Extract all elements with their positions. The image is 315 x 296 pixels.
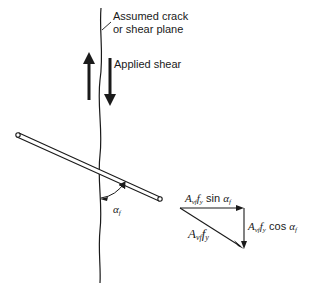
crack-label-line1: Assumed crack — [113, 10, 189, 22]
crack-leader — [102, 22, 111, 30]
diagram-svg: Assumed crack or shear plane Applied she… — [0, 0, 315, 296]
horizontal-component-label: Avffy sin αf — [184, 192, 232, 206]
vertical-component-label: Avffy cos αf — [247, 220, 298, 234]
crack-label-line2: or shear plane — [113, 23, 183, 35]
shear-friction-diagram: Assumed crack or shear plane Applied she… — [0, 0, 315, 296]
angle-label: αf — [113, 203, 122, 217]
crack-line — [99, 8, 101, 283]
applied-shear-label: Applied shear — [114, 58, 182, 70]
reinforcing-bar — [16, 133, 162, 201]
up-arrow-icon — [83, 52, 95, 100]
resultant-label: Avffy — [187, 226, 209, 242]
